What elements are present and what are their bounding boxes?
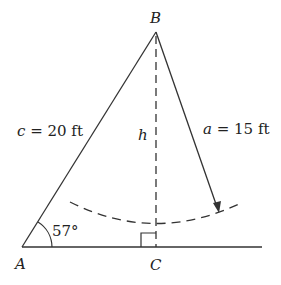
triangle-diagram: B A C h 57° c = 20 ft a = 15 ft — [0, 0, 281, 285]
vertex-c-label: C — [150, 256, 162, 274]
side-c-value: = 20 ft — [25, 122, 83, 140]
side-a-label: a = 15 ft — [203, 120, 270, 138]
right-angle-marker — [141, 233, 156, 247]
side-a-value: = 15 ft — [212, 120, 270, 138]
side-c-label: c = 20 ft — [17, 122, 83, 140]
arrow-head-icon — [213, 201, 221, 213]
vertex-b-label: B — [149, 9, 161, 27]
height-label: h — [138, 126, 148, 144]
side-a-var: a — [203, 120, 212, 138]
vertex-a-label: A — [13, 255, 26, 273]
angle-label: 57° — [52, 222, 79, 240]
angle-arc — [38, 222, 52, 247]
